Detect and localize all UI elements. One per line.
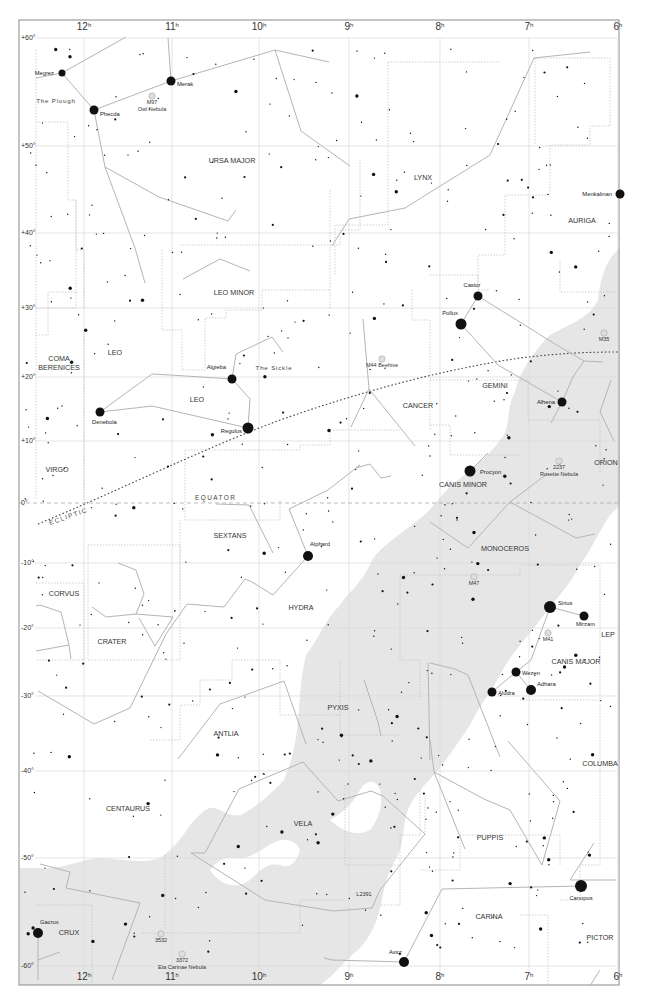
star xyxy=(447,201,448,202)
star xyxy=(445,923,446,924)
star xyxy=(543,71,545,73)
star xyxy=(250,506,251,507)
star xyxy=(234,90,237,93)
star xyxy=(414,572,415,573)
star xyxy=(161,894,164,897)
star xyxy=(527,724,528,725)
star xyxy=(342,233,344,235)
star xyxy=(42,478,43,479)
star xyxy=(513,238,514,239)
star xyxy=(276,78,277,79)
star-pollux: Pollux xyxy=(442,310,466,330)
star xyxy=(316,841,319,844)
star xyxy=(129,300,131,302)
star xyxy=(360,195,361,196)
star xyxy=(45,565,46,566)
star xyxy=(269,782,271,784)
star xyxy=(192,700,193,701)
constellation-name: HYDRA xyxy=(288,603,313,612)
star xyxy=(456,517,458,519)
star xyxy=(516,846,517,847)
star-name: Procyon xyxy=(480,469,501,475)
star xyxy=(553,801,554,802)
ra-tick-label: 7h xyxy=(525,21,534,32)
star xyxy=(133,935,135,937)
star xyxy=(428,265,430,267)
star xyxy=(332,521,333,522)
star xyxy=(413,141,414,142)
star xyxy=(377,573,378,574)
star xyxy=(141,696,143,698)
star xyxy=(451,435,452,436)
star xyxy=(431,182,432,183)
ra-tick-label: 6h xyxy=(614,971,623,982)
star-name: Castor xyxy=(463,282,480,288)
star xyxy=(266,826,267,827)
star xyxy=(263,552,266,555)
star xyxy=(225,237,226,238)
star xyxy=(89,214,90,215)
star xyxy=(526,841,528,843)
equator-label: EQUATOR xyxy=(195,494,236,502)
constellation-name: GEMINI xyxy=(482,381,508,390)
star xyxy=(436,812,437,813)
star xyxy=(263,773,264,774)
star xyxy=(315,159,316,160)
star xyxy=(302,925,303,926)
star xyxy=(51,301,52,302)
star xyxy=(245,893,247,895)
star xyxy=(610,544,611,545)
star xyxy=(263,307,264,308)
star xyxy=(385,807,386,808)
star xyxy=(215,64,216,65)
star xyxy=(77,425,78,426)
dec-tick-label: -30° xyxy=(21,692,34,699)
star xyxy=(339,422,341,424)
star xyxy=(27,932,30,935)
star xyxy=(79,624,80,625)
star xyxy=(456,519,457,520)
star xyxy=(530,360,532,362)
star xyxy=(229,682,231,684)
star xyxy=(195,218,197,220)
star xyxy=(204,611,205,612)
star xyxy=(128,622,129,623)
star xyxy=(91,940,94,943)
star xyxy=(499,941,500,942)
star xyxy=(559,271,560,272)
star xyxy=(207,951,209,953)
star xyxy=(96,233,97,234)
star xyxy=(511,374,512,375)
star xyxy=(330,240,331,241)
star xyxy=(254,776,256,778)
star-dot xyxy=(465,466,476,477)
constellation-name: ORION xyxy=(594,458,618,467)
star xyxy=(550,164,551,165)
star xyxy=(358,450,359,451)
star xyxy=(135,588,136,589)
star xyxy=(25,498,26,499)
deep-sky-name: M41 xyxy=(543,636,554,642)
star xyxy=(379,783,380,784)
constellation-name: ANTLIA xyxy=(213,729,238,738)
star xyxy=(372,173,375,176)
star xyxy=(396,180,397,181)
star xyxy=(391,722,393,724)
star xyxy=(410,133,411,134)
star xyxy=(331,92,332,93)
star xyxy=(502,214,504,216)
star xyxy=(472,531,475,534)
star xyxy=(278,547,279,548)
star xyxy=(48,442,49,443)
star xyxy=(142,53,143,54)
star xyxy=(177,856,178,857)
star xyxy=(431,673,432,674)
star xyxy=(285,572,286,573)
star xyxy=(557,390,558,391)
star xyxy=(134,457,135,458)
star xyxy=(293,79,294,80)
asterism-name: The Plough xyxy=(36,97,76,104)
star xyxy=(369,369,370,370)
star xyxy=(384,53,385,54)
star xyxy=(352,754,354,756)
